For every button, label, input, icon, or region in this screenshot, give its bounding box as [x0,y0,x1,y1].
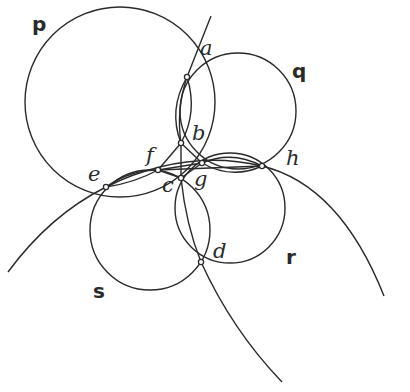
label-h: h [286,146,300,170]
point-e [103,184,108,189]
point-h [259,163,264,168]
label-f: f [144,143,157,167]
label-e: e [88,162,100,186]
label-a: a [200,36,213,60]
label-b: b [192,121,205,145]
label-circle-q: q [292,59,306,83]
point-b [178,140,183,145]
label-circle-s: s [93,279,105,303]
label-circle-r: r [286,245,296,269]
point-g [199,160,204,165]
label-circle-p: p [32,12,46,36]
label-d: d [213,239,226,263]
label-c: c [162,173,174,197]
circle-diagram: a b f g c h e d p q r s [0,0,410,392]
point-f [155,167,160,172]
circle-q [180,53,296,169]
label-g: g [194,167,207,191]
point-d [198,259,203,264]
line-bf [158,143,181,170]
point-a [184,74,189,79]
long-arc-ad [179,16,282,382]
point-c [178,175,183,180]
circle-r [175,153,285,263]
